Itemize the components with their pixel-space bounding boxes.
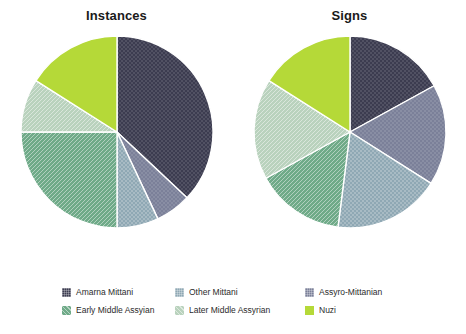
legend-swatch-icon bbox=[305, 306, 314, 315]
legend-item-label: Assyro-Mittanian bbox=[319, 288, 382, 297]
legend-swatch-icon bbox=[62, 288, 71, 297]
legend-item-label: Early Middle Assyian bbox=[76, 306, 154, 315]
page-title-instances: Instances bbox=[0, 8, 233, 23]
legend-swatch-icon bbox=[175, 306, 184, 315]
legend-item[interactable]: Assyro-Mittanian bbox=[305, 283, 466, 301]
legend-item-label: Amarna Mittani bbox=[76, 288, 133, 297]
legend-item[interactable]: Later Middle Assyrian bbox=[175, 301, 305, 319]
chart-panel-signs: Signs bbox=[233, 0, 466, 250]
legend-swatch-icon bbox=[62, 306, 71, 315]
legend-item[interactable]: Early Middle Assyian bbox=[0, 301, 175, 319]
legend-item[interactable]: Amarna Mittani bbox=[0, 283, 175, 301]
legend-swatch-icon bbox=[175, 288, 184, 297]
pie-chart-figure: Instances Signs Amarna MittaniOther Mitt… bbox=[0, 0, 466, 334]
chart-legend: Amarna MittaniOther MittaniAssyro-Mittan… bbox=[0, 283, 466, 327]
legend-item[interactable]: Other Mittani bbox=[175, 283, 305, 301]
chart-panel-instances: Instances bbox=[0, 0, 233, 250]
legend-swatch-icon bbox=[305, 288, 314, 297]
legend-item-label: Other Mittani bbox=[189, 288, 238, 297]
pie-chart-signs bbox=[252, 34, 448, 230]
page-title-signs: Signs bbox=[233, 8, 466, 23]
pie-slice[interactable] bbox=[21, 132, 117, 228]
legend-item-label: Nuzi bbox=[319, 306, 336, 315]
legend-row: Amarna MittaniOther MittaniAssyro-Mittan… bbox=[0, 283, 466, 301]
legend-row: Early Middle AssyianLater Middle Assyria… bbox=[0, 301, 466, 319]
legend-item[interactable]: Nuzi bbox=[305, 301, 466, 319]
pie-chart-instances bbox=[19, 34, 215, 230]
legend-item-label: Later Middle Assyrian bbox=[189, 306, 270, 315]
